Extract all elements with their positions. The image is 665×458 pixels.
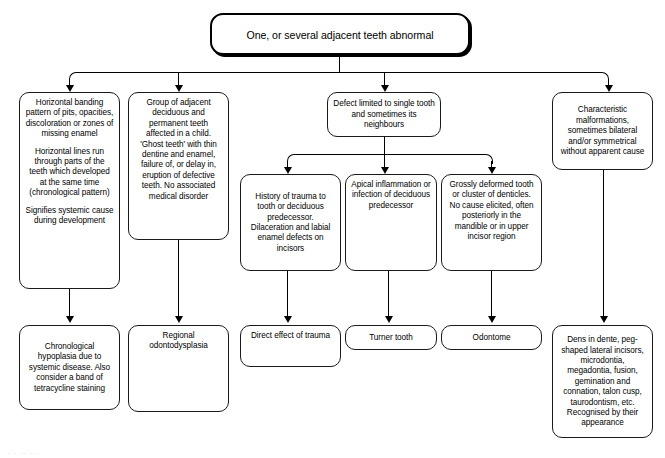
node-direct-effect-of-trauma-para-0: Direct effect of trauma [246, 331, 335, 341]
connector-drop-outcome-2 [178, 240, 179, 319]
node-dens-in-dente: Dens in dente, peg-shaped lateral inciso… [552, 325, 653, 438]
node-horizontal-banding: Horizontal banding pattern of pits, opac… [19, 92, 120, 289]
node-direct-effect-of-trauma: Direct effect of trauma [240, 325, 341, 367]
arrowhead-col4 [605, 85, 613, 92]
arrowhead-outcome-5 [488, 316, 496, 323]
node-dens-in-dente-para-0: Dens in dente, peg-shaped lateral inciso… [558, 335, 647, 429]
connector-drop-outcome-6 [603, 170, 604, 319]
connector-bus-left-elbow [69, 72, 340, 82]
node-odontome-para-0: Odontome [473, 333, 511, 343]
node-defect-limited: Defect limited to single tooth and somet… [327, 92, 441, 137]
arrowhead-outcome-1 [66, 316, 74, 323]
node-turner-tooth-para-0: Turner tooth [369, 333, 413, 343]
node-defect-limited-para-0: Defect limited to single tooth and somet… [333, 99, 435, 130]
node-odontome: Odontome [441, 325, 542, 350]
node-group-of-adjacent: Group of adjacent deciduous and permanen… [128, 92, 229, 240]
connector-bus2-right-elbow [383, 154, 493, 164]
node-chronological-hypoplasia-para-0: Chronological hypoplasia due to systemic… [25, 342, 114, 394]
node-group-of-adjacent-para-0: Group of adjacent deciduous and permanen… [134, 98, 223, 202]
node-characteristic-malformations-para-0: Characteristic malformations, sometimes … [558, 105, 647, 157]
connector-drop-outcome-5 [491, 271, 492, 319]
node-grossly-deformed: Grossly deformed tooth or cluster of den… [441, 174, 542, 271]
node-characteristic-malformations: Characteristic malformations, sometimes … [552, 92, 653, 170]
connector-defect-stem [384, 137, 385, 155]
node-horizontal-banding-para-0: Horizontal banding pattern of pits, opac… [25, 98, 114, 140]
connector-drop-outcome-3 [287, 271, 288, 319]
arrowhead-outcome-2 [175, 316, 183, 323]
arrowhead-outcome-3 [284, 316, 292, 323]
arrowhead-col1 [66, 85, 74, 92]
arrowhead-sub2 [381, 167, 389, 174]
connector-root-stem [339, 55, 340, 73]
connector-drop-outcome-1 [69, 289, 70, 319]
arrowhead-col3 [381, 85, 389, 92]
node-grossly-deformed-para-0: Grossly deformed tooth or cluster of den… [447, 180, 536, 242]
node-root: One, or several adjacent teeth abnormal [210, 13, 470, 55]
node-apical-inflammation: Apical inflammation or infection of deci… [345, 174, 437, 271]
node-history-of-trauma-para-0: History of trauma to tooth or deciduous … [246, 192, 335, 254]
arrowhead-outcome-4 [385, 316, 393, 323]
node-turner-tooth: Turner tooth [345, 325, 437, 350]
node-history-of-trauma: History of trauma to tooth or deciduous … [240, 174, 341, 271]
arrowhead-sub3 [488, 167, 496, 174]
node-chronological-hypoplasia: Chronological hypoplasia due to systemic… [19, 325, 120, 410]
node-root-text: One, or several adjacent teeth abnormal [246, 29, 433, 42]
connector-bus-right-elbow [338, 72, 609, 82]
node-horizontal-banding-para-1: Horizontal lines run through parts of th… [25, 147, 114, 199]
arrowhead-col2 [175, 85, 183, 92]
arrowhead-outcome-6 [600, 316, 608, 323]
node-regional-odontodysplasia: Regional odontodysplasia [128, 325, 229, 412]
connector-bus2-left-elbow [287, 154, 386, 164]
connector-drop-outcome-4 [388, 271, 389, 319]
node-apical-inflammation-para-0: Apical inflammation or infection of deci… [351, 180, 431, 211]
flowchart-canvas: One, or several adjacent teeth abnormal … [0, 0, 665, 458]
node-horizontal-banding-para-2: Signifies systemic cause during developm… [25, 206, 114, 227]
arrowhead-sub1 [284, 167, 292, 174]
scan-edge-artifact: · · ·· ·· [8, 450, 37, 457]
node-regional-odontodysplasia-para-0: Regional odontodysplasia [134, 331, 223, 352]
